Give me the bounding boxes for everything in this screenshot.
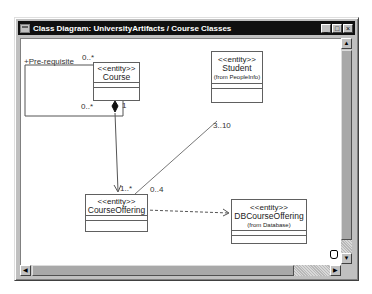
diagram-window-icon[interactable] — [20, 24, 30, 33]
class-package: (from PeopleInfo) — [212, 73, 262, 81]
horizontal-scroll-track[interactable] — [294, 265, 330, 276]
vertical-scrollbar[interactable]: ▲ ▼ — [341, 38, 352, 264]
close-button[interactable]: × — [343, 24, 353, 33]
operations-compartment — [232, 235, 306, 240]
horizontal-scrollbar[interactable]: ◀ ▶ — [20, 265, 341, 276]
association-multiplicity-student: 3..10 — [213, 121, 231, 130]
scroll-down-button[interactable]: ▼ — [341, 253, 352, 264]
composition-multiplicity-course: 1 — [122, 101, 126, 110]
class-name: DBCourseOffering — [232, 212, 306, 221]
self-multiplicity-top: 0..* — [82, 53, 94, 62]
composition-diamond-icon — [112, 101, 118, 112]
self-multiplicity-bottom: 0..* — [81, 102, 93, 111]
class-course-offering[interactable]: <<entity>> CourseOffering — [85, 194, 148, 232]
class-name: Course — [94, 73, 139, 82]
hand-cursor-icon — [330, 250, 338, 259]
class-name: Student — [212, 64, 262, 73]
vertical-scroll-track[interactable] — [341, 240, 352, 253]
operations-compartment — [212, 88, 262, 93]
scroll-right-button[interactable]: ▶ — [330, 265, 341, 276]
vertical-scroll-thumb[interactable] — [341, 50, 352, 240]
association-line — [135, 121, 217, 194]
composition-line — [115, 113, 118, 191]
scroll-up-button[interactable]: ▲ — [341, 38, 352, 49]
dependency-line — [145, 210, 229, 213]
operations-compartment — [94, 87, 139, 92]
operations-compartment — [86, 220, 147, 225]
association-multiplicity-offering: 0..4 — [150, 185, 163, 194]
horizontal-scroll-thumb[interactable] — [32, 265, 294, 276]
class-course[interactable]: <<entity>> Course — [93, 62, 140, 101]
class-db-course-offering[interactable]: <<entity>> DBCourseOffering (from Databa… — [231, 199, 307, 244]
scroll-left-button[interactable]: ◀ — [20, 265, 31, 276]
minimize-button[interactable]: _ — [321, 24, 331, 33]
composition-multiplicity-offering: 1..* — [120, 184, 132, 193]
class-diagram-window: Class Diagram: UniversityArtifacts / Cou… — [14, 17, 359, 281]
class-name: CourseOffering — [86, 206, 147, 215]
maximize-button[interactable]: □ — [332, 24, 342, 33]
class-student[interactable]: <<entity>> Student (from PeopleInfo) — [211, 51, 263, 103]
diagram-canvas[interactable]: <<entity>> Course <<entity>> Student (fr… — [20, 38, 341, 265]
class-package: (from Database) — [232, 221, 306, 229]
size-grip[interactable] — [341, 265, 352, 276]
window-title: Class Diagram: UniversityArtifacts / Cou… — [33, 24, 231, 33]
title-bar[interactable]: Class Diagram: UniversityArtifacts / Cou… — [18, 21, 355, 35]
prerequisite-role-label: +Pre-requisite — [24, 57, 74, 66]
